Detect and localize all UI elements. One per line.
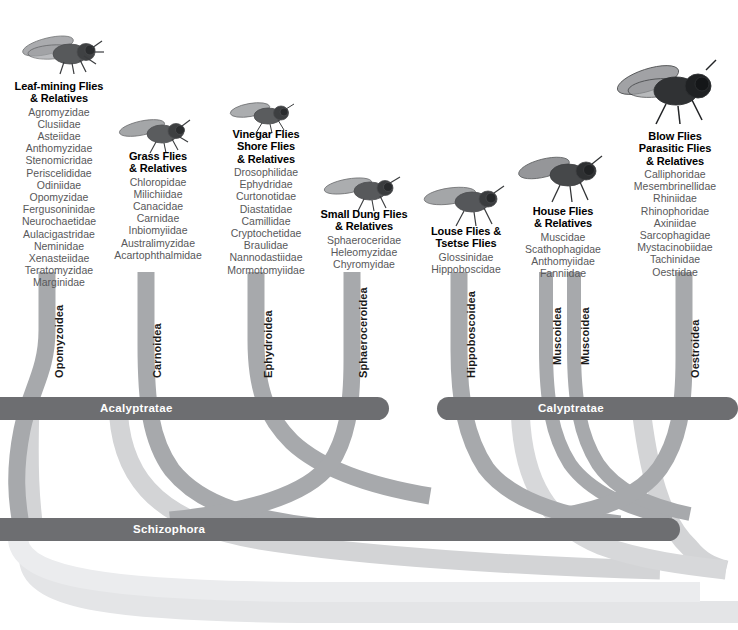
family-list: Muscidae Scathophagidae Anthomyiidae Fan… (508, 231, 618, 280)
fly-illustration-leaf-mining (18, 24, 106, 76)
family-item: Inbiomyiidae (98, 224, 218, 236)
clade-house-flies: House Flies & Relatives Muscidae Scathop… (508, 205, 618, 279)
clade-blow-flies: Blow Flies Parasitic Flies & Relatives C… (612, 130, 738, 278)
superfamily-label-hippoboscoidea: Hippoboscoidea (465, 291, 477, 378)
family-item: Sarcophagidae (612, 229, 738, 241)
family-item: Asteiidae (0, 130, 118, 142)
clade-grass-flies: Grass Flies & Relatives Chloropidae Mili… (98, 150, 218, 261)
family-item: Oestridae (612, 266, 738, 278)
superfamily-label-oestroidea: Oestroidea (689, 320, 701, 378)
family-item: Hippoboscidae (411, 263, 521, 275)
phylogeny-diagram: Leaf-mining Flies & Relatives Agromyzida… (0, 0, 738, 630)
fly-illustration-louse-flies (422, 180, 506, 228)
family-item: Scathophagidae (508, 243, 618, 255)
family-item: Axiniidae (612, 217, 738, 229)
superfamily-label-opomyzoidea: Opomyzoidea (53, 305, 65, 378)
family-item: Rhiniidae (612, 192, 738, 204)
superfamily-label-muscoidea-2: Muscoidea (579, 307, 591, 365)
family-item: Mesembrinellidae (612, 180, 738, 192)
family-item: Acartophthalmidae (98, 249, 218, 261)
clade-title: Louse Flies & Tsetse Flies (411, 225, 521, 250)
family-item: Drosophilidae (208, 166, 324, 178)
bar-label-schizophora: Schizophora (133, 523, 205, 535)
family-item: Marginidae (0, 276, 118, 288)
superfamily-label-carnoidea: Carnoidea (151, 323, 163, 378)
clade-louse-flies: Louse Flies & Tsetse Flies Glossinidae H… (411, 225, 521, 275)
bar-acalyptratae (0, 397, 389, 420)
bar-label-calyptratae: Calyptratae (538, 402, 604, 414)
family-list: Sphaeroceridae Heleomyzidae Chyromyidae (303, 234, 425, 271)
family-item: Chyromyidae (303, 258, 425, 270)
family-item: Calliphoridae (612, 168, 738, 180)
family-item: Mystacinobiidae (612, 241, 738, 253)
superfamily-label-ephydroidea: Ephydroidea (262, 310, 274, 378)
family-item: Tachinidae (612, 253, 738, 265)
clade-title: Blow Flies Parasitic Flies & Relatives (612, 130, 738, 167)
family-item: Teratomyzidae (0, 264, 118, 276)
family-item: Australimyzidae (98, 237, 218, 249)
clade-small-dung-flies: Small Dung Flies & Relatives Sphaeroceri… (303, 208, 425, 270)
fly-illustration-small-dung-flies (322, 170, 402, 212)
family-item: Agromyzidae (0, 106, 118, 118)
superfamily-label-sphaeroceroidea: Sphaeroceroidea (357, 287, 369, 378)
family-list: Chloropidae Milichiidae Canacidae Carnid… (98, 176, 218, 261)
fly-illustration-grass-flies (116, 112, 192, 154)
family-item: Anthomyiidae (508, 255, 618, 267)
bar-schizophora (0, 518, 680, 541)
fly-illustration-house-flies (516, 150, 604, 204)
family-list: Calliphoridae Mesembrinellidae Rhiniidae… (612, 168, 738, 278)
family-item: Clusiidae (0, 118, 118, 130)
clade-title: Vinegar Flies Shore Flies & Relatives (208, 128, 324, 165)
bar-label-acalyptratae: Acalyptratae (100, 402, 173, 414)
superfamily-label-muscoidea-1: Muscoidea (551, 307, 563, 365)
family-item: Muscidae (508, 231, 618, 243)
family-item: Sphaeroceridae (303, 234, 425, 246)
family-item: Fanniidae (508, 267, 618, 279)
clade-title: Leaf-mining Flies & Relatives (0, 80, 118, 105)
family-item: Chloropidae (98, 176, 218, 188)
family-item: Heleomyzidae (303, 246, 425, 258)
clade-bars (0, 397, 738, 541)
family-item: Rhinophoridae (612, 205, 738, 217)
clade-title: Grass Flies & Relatives (98, 150, 218, 175)
family-item: Canacidae (98, 200, 218, 212)
family-list: Glossinidae Hippoboscidae (411, 251, 521, 275)
family-item: Glossinidae (411, 251, 521, 263)
family-item: Milichiidae (98, 188, 218, 200)
clade-title: House Flies & Relatives (508, 205, 618, 230)
family-item: Carnidae (98, 212, 218, 224)
fly-illustration-blow-flies (612, 58, 722, 126)
family-item: Curtonotidae (208, 190, 324, 202)
family-item: Ephydridae (208, 178, 324, 190)
clade-title: Small Dung Flies & Relatives (303, 208, 425, 233)
